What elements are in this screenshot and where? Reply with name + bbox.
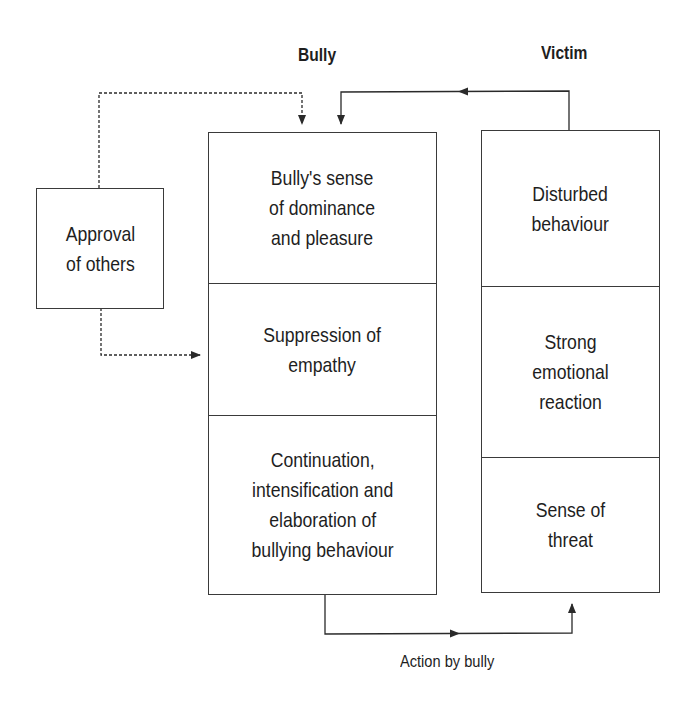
continuation-label: Continuation, intensification and elabor…	[251, 445, 393, 565]
approval-of-others-box: Approval of others	[36, 188, 164, 309]
arrow-bully-to-victim	[325, 594, 572, 638]
bully-cell-continuation: Continuation, intensification and elabor…	[209, 415, 436, 594]
emotional-label: Strong emotional reaction	[532, 327, 608, 417]
bully-column: Bully's sense of dominance and pleasure …	[208, 132, 437, 595]
dashed-arrow-approval-to-empathy	[101, 308, 200, 355]
victim-cell-threat: Sense of threat	[482, 457, 659, 592]
dominance-label: Bully's sense of dominance and pleasure	[270, 163, 376, 253]
disturbed-label: Disturbed behaviour	[532, 179, 609, 239]
victim-cell-disturbed: Disturbed behaviour	[482, 131, 659, 286]
victim-column: Disturbed behaviour Strong emotional rea…	[481, 130, 660, 593]
victim-cell-emotional: Strong emotional reaction	[482, 286, 659, 457]
bully-cell-dominance: Bully's sense of dominance and pleasure	[209, 133, 436, 283]
threat-label: Sense of threat	[536, 495, 606, 555]
approval-label: Approval of others	[65, 219, 135, 279]
action-by-bully-label: Action by bully	[400, 652, 494, 672]
empathy-label: Suppression of empathy	[264, 320, 382, 380]
bully-cell-empathy: Suppression of empathy	[209, 283, 436, 415]
arrow-victim-to-bully	[341, 88, 569, 131]
